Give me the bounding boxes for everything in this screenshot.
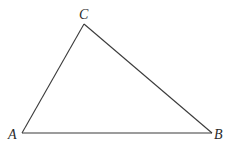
vertex-label-b: B bbox=[214, 127, 223, 142]
edge-bc bbox=[84, 24, 212, 133]
triangle-diagram: A B C bbox=[0, 0, 234, 153]
vertex-label-a: A bbox=[7, 127, 17, 142]
edge-ca bbox=[22, 24, 84, 133]
vertex-label-c: C bbox=[79, 7, 89, 22]
